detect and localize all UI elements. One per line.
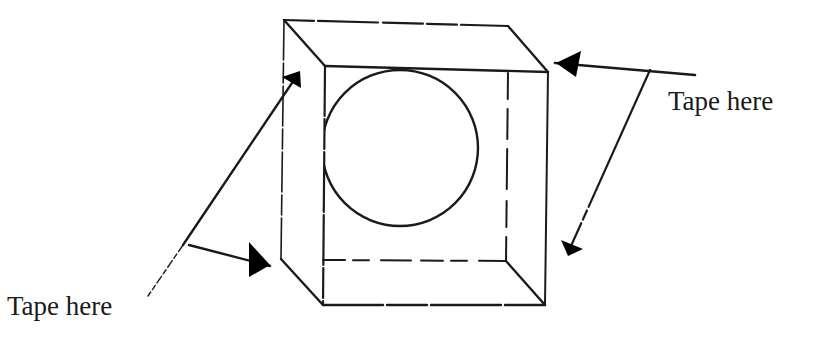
tape-here-label-left: Tape here xyxy=(7,293,112,320)
circle-opening xyxy=(322,70,478,226)
right-arrows xyxy=(555,51,695,256)
tape-here-label-right: Tape here xyxy=(668,88,773,115)
left-arrows xyxy=(148,71,301,296)
box-drawing xyxy=(0,0,835,352)
diagram-canvas: Tape here Tape here xyxy=(0,0,835,352)
